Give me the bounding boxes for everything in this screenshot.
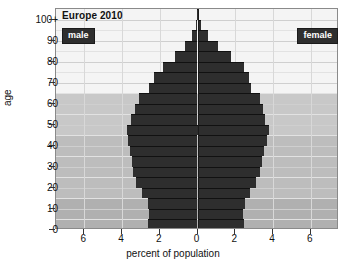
legend-female: female [297,28,338,44]
bar-female-60-64 [198,93,260,104]
bar-male-55-59 [135,104,197,115]
bar-female-75-79 [198,62,244,73]
legend-male: male [62,28,95,44]
center-axis-line [198,9,199,228]
vgridline-4 [273,9,274,228]
bar-female-30-34 [198,156,262,167]
bar-female-70-74 [198,72,250,83]
bar-male-65-69 [149,83,197,94]
bar-male-0-4 [148,219,197,229]
bar-male-80-84 [175,51,198,62]
x-tick-mark-1 [121,229,122,234]
y-tick-mark-50 [49,124,55,125]
bar-female-35-39 [198,146,265,157]
x-tick-mark-2 [159,229,160,234]
x-tick-mark-0 [83,229,84,234]
bar-female-85-89 [198,41,219,52]
bar-male-10-14 [148,198,198,209]
bar-female-55-59 [198,104,263,115]
bar-female-90-94 [198,30,208,41]
bar-male-35-39 [130,146,198,157]
vgridline--4 [122,9,123,228]
bar-male-75-79 [163,62,198,73]
population-pyramid-figure: age Europe 2010 male female 010203040506… [0,0,346,265]
bar-female-50-54 [198,114,266,125]
bar-female-25-29 [198,167,260,178]
x-tick-label-4: 2 [231,233,237,244]
y-axis-title: age [2,89,13,106]
y-tick-mark-70 [49,82,55,83]
x-tick-label-2: 2 [156,233,162,244]
y-tick-mark-100 [49,19,55,20]
bar-male-50-54 [131,114,197,125]
bar-female-5-9 [198,209,243,220]
x-tick-mark-6 [310,229,311,234]
bar-female-20-24 [198,177,256,188]
plot-area [55,8,338,229]
bar-female-10-14 [198,198,245,209]
x-tick-label-5: 4 [269,233,275,244]
y-tick-mark-40 [49,145,55,146]
bar-male-20-24 [136,177,197,188]
bar-male-30-34 [132,156,197,167]
y-tick-mark-60 [49,103,55,104]
x-tick-label-0: 6 [81,233,87,244]
bar-female-40-44 [198,135,268,146]
bar-female-45-49 [198,125,270,136]
bar-female-65-69 [198,83,252,94]
y-tick-mark-10 [49,208,55,209]
x-tick-label-6: 6 [307,233,313,244]
x-tick-label-1: 4 [118,233,124,244]
y-tick-mark-20 [49,187,55,188]
x-tick-mark-4 [234,229,235,234]
bar-male-85-89 [185,41,197,52]
bar-male-25-29 [133,167,197,178]
bar-female-80-84 [198,51,232,62]
bar-female-0-4 [198,219,244,229]
y-tick-mark-30 [49,166,55,167]
y-tick-mark-0 [49,229,55,230]
bar-male-45-49 [127,125,198,136]
bar-male-70-74 [154,72,197,83]
x-tick-mark-5 [272,229,273,234]
bar-male-40-44 [128,135,198,146]
x-axis-title: percent of population [0,248,346,259]
x-tick-mark-3 [197,229,198,234]
x-tick-label-3: 0 [194,233,200,244]
bar-male-5-9 [149,209,197,220]
y-tick-mark-90 [49,40,55,41]
y-tick-mark-80 [49,61,55,62]
bar-female-15-19 [198,188,251,199]
chart-title: Europe 2010 [62,10,123,21]
bar-male-15-19 [142,188,198,199]
bar-male-60-64 [139,93,197,104]
